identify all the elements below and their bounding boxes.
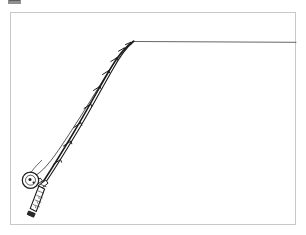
fishing-line-trailing: [133, 42, 296, 43]
reel-screw: [33, 182, 35, 184]
illustration-page: Bent fishing rod with spinning reel fish…: [0, 0, 306, 235]
reel-hub: [29, 178, 32, 181]
rod-blank-edge-upper: [46, 41, 135, 182]
rod-handle: [27, 186, 44, 217]
handle-butt-cap: [27, 211, 35, 217]
fishing-rod-artwork: [0, 0, 306, 235]
spinning-reel: [22, 172, 38, 188]
line-from-reel: [31, 160, 42, 172]
handle-body: [30, 186, 44, 212]
fishing-line-along-blank: [34, 42, 134, 177]
